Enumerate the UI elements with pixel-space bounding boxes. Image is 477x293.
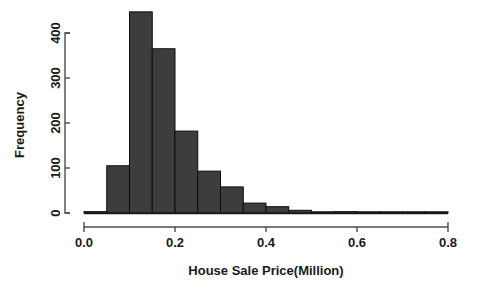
house-price-histogram: 0100200300400 0.00.20.40.60.8 Frequency … [0, 0, 477, 293]
histogram-bars [84, 12, 448, 213]
histogram-bar [243, 203, 266, 213]
x-tick-label: 0.4 [257, 235, 276, 250]
y-tick-label: 400 [48, 22, 63, 44]
histogram-bar [84, 212, 107, 213]
histogram-bar [334, 212, 357, 213]
histogram-bar [152, 49, 175, 213]
y-tick-label: 200 [48, 112, 63, 134]
histogram-figure: 0100200300400 0.00.20.40.60.8 Frequency … [0, 0, 477, 293]
x-tick-label: 0.2 [166, 235, 184, 250]
y-tick-label: 100 [48, 157, 63, 179]
histogram-bar [130, 12, 153, 213]
x-tick-label: 0.0 [75, 235, 93, 250]
histogram-bar [221, 187, 244, 213]
x-axis [84, 222, 448, 227]
x-axis-line [84, 222, 448, 227]
y-tick-label: 300 [48, 67, 63, 89]
x-axis-title: House Sale Price(Million) [188, 263, 343, 278]
y-axis-ticks: 0100200300400 [48, 22, 71, 216]
x-tick-label: 0.8 [439, 235, 457, 250]
y-tick-label: 0 [48, 209, 63, 216]
histogram-bar [198, 171, 221, 213]
x-axis-ticks: 0.00.20.40.60.8 [75, 227, 457, 250]
histogram-bar [175, 131, 198, 213]
histogram-bar [107, 166, 130, 213]
histogram-bar [289, 210, 312, 213]
y-axis-title: Frequency [12, 91, 27, 158]
x-tick-label: 0.6 [348, 235, 366, 250]
histogram-bar [266, 207, 289, 213]
